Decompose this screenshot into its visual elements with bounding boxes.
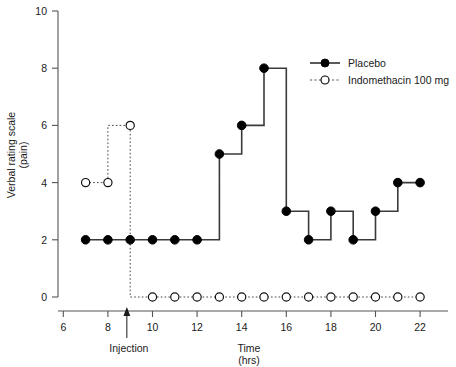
y-tick-label: 0 [41,291,47,303]
data-point-indomethacin [215,293,223,301]
x-axis-tick-labels: 6 8 10 12 14 16 18 20 22 [60,321,426,333]
data-point-placebo [171,236,180,245]
data-point-placebo [126,236,135,245]
legend-label-indomethacin: Indomethacin 100 mg [348,74,449,86]
placebo-series-line [86,68,421,240]
y-axis: 10 8 6 4 2 0 [35,5,58,303]
data-point-placebo [81,236,90,245]
data-point-placebo [260,64,269,73]
data-point-indomethacin [416,293,424,301]
y-tick-label: 2 [41,234,47,246]
chart-figure: Verbal rating scale (pain) 10 8 6 4 2 0 [0,0,456,367]
data-point-indomethacin [371,293,379,301]
x-axis-ticks [63,311,420,317]
chart-legend: Placebo Indomethacin 100 mg [310,57,449,86]
x-tick-label: 6 [60,321,66,333]
x-axis-title-line2: (hrs) [238,354,260,366]
data-point-indomethacin [148,293,156,301]
x-tick-label: 12 [191,321,203,333]
x-tick-label: 14 [236,321,248,333]
data-point-indomethacin [260,293,268,301]
y-tick-label: 8 [41,62,47,74]
indomethacin-series-line [86,125,421,297]
data-point-indomethacin [193,293,201,301]
verbal-rating-scale-line-chart: Verbal rating scale (pain) 10 8 6 4 2 0 [0,0,456,367]
data-point-indomethacin [126,121,134,129]
x-tick-label: 16 [280,321,292,333]
injection-label: Injection [109,342,148,354]
legend-label-placebo: Placebo [348,57,386,69]
legend-item-indomethacin: Indomethacin 100 mg [310,74,449,86]
x-tick-label: 8 [105,321,111,333]
data-point-indomethacin [238,293,246,301]
legend-item-placebo: Placebo [310,57,386,69]
y-axis-title: Verbal rating scale (pain) [5,112,29,199]
data-point-indomethacin [282,293,290,301]
filled-circle-icon [321,59,329,67]
data-point-indomethacin [327,293,335,301]
data-point-indomethacin [104,179,112,187]
data-point-placebo [104,236,113,245]
data-point-indomethacin [394,293,402,301]
data-point-placebo [282,207,291,216]
data-point-indomethacin [171,293,179,301]
x-tick-label: 22 [414,321,426,333]
data-point-indomethacin [349,293,357,301]
data-point-placebo [148,236,157,245]
y-axis-title-line2: (pain) [17,142,29,169]
data-point-placebo [304,236,313,245]
y-axis-ticks [52,11,58,297]
data-point-placebo [349,236,358,245]
x-axis-title: Time (hrs) [238,342,261,366]
open-circle-icon [321,76,329,84]
y-axis-tick-labels: 10 8 6 4 2 0 [35,5,47,303]
y-tick-label: 10 [35,5,47,17]
y-tick-label: 6 [41,119,47,131]
data-point-indomethacin [305,293,313,301]
x-tick-label: 18 [325,321,337,333]
data-point-placebo [327,207,336,216]
x-axis: 6 8 10 12 14 16 18 20 22 [58,311,448,333]
data-point-placebo [394,178,403,187]
x-tick-label: 20 [370,321,382,333]
y-axis-title-line1: Verbal rating scale [5,112,17,199]
y-tick-label: 4 [41,177,47,189]
data-point-placebo [416,178,425,187]
injection-annotation: Injection [109,307,148,354]
x-tick-label: 10 [147,321,159,333]
data-point-placebo [237,121,246,130]
placebo-series-markers [81,64,424,244]
data-point-placebo [193,236,202,245]
data-point-placebo [371,207,380,216]
data-point-indomethacin [82,179,90,187]
data-point-placebo [215,150,224,159]
x-axis-title-line1: Time [238,342,261,354]
